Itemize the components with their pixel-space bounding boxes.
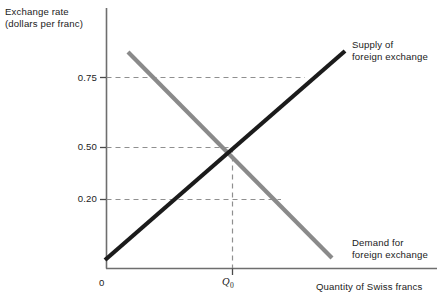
- y-axis-title-line2: (dollars per franc): [5, 18, 83, 29]
- supply-curve: [105, 51, 345, 260]
- exchange-rate-supply-demand-chart: Exchange rate(dollars per franc) Quantit…: [0, 0, 439, 302]
- y-tick-label-020: 0.20: [53, 193, 97, 204]
- q0-letter: Q: [222, 276, 230, 287]
- equilibrium-quantity-label: Q0: [222, 276, 233, 287]
- supply-label-line2: foreign exchange: [352, 51, 428, 62]
- y-axis-title: Exchange rate(dollars per franc): [5, 6, 83, 31]
- origin-label: 0: [99, 277, 105, 289]
- demand-label-line1: Demand for: [352, 237, 404, 248]
- supply-curve-label: Supply offoreign exchange: [352, 39, 428, 64]
- x-axis-title: Quantity of Swiss francs: [316, 281, 423, 293]
- demand-curve: [128, 52, 332, 258]
- q0-subscript: 0: [230, 281, 234, 290]
- demand-curve-label: Demand forforeign exchange: [352, 237, 428, 262]
- y-tick-label-075: 0.75: [53, 72, 97, 83]
- demand-label-line2: foreign exchange: [352, 249, 428, 260]
- y-axis-title-line1: Exchange rate: [5, 6, 69, 17]
- y-tick-label-050: 0.50: [53, 141, 97, 152]
- supply-label-line1: Supply of: [352, 39, 393, 50]
